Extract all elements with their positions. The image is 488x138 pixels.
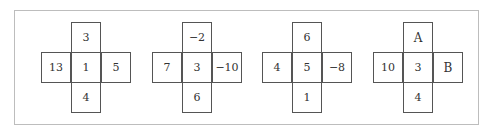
cell-left: 10 (373, 52, 403, 83)
cell-right: 5 (101, 52, 131, 83)
cell-right: −10 (212, 52, 242, 83)
cell-left: 13 (41, 52, 71, 83)
cell-bottom: 1 (292, 82, 322, 113)
cell-top: 3 (71, 22, 101, 53)
cross-grid-4: A 10 3 B 4 (373, 22, 463, 114)
cell-center: 1 (71, 52, 101, 83)
cell-left: 7 (152, 52, 182, 83)
cell-center: 5 (292, 52, 322, 83)
cross-grid-1: 3 13 1 5 4 (41, 22, 131, 114)
cell-top: −2 (182, 22, 212, 53)
cell-center: 3 (403, 52, 433, 83)
cell-left: 4 (262, 52, 292, 83)
cross-grid-3: 6 4 5 −8 1 (262, 22, 352, 114)
cell-top: 6 (292, 22, 322, 53)
cell-right: −8 (322, 52, 352, 83)
cell-top-unknown-a: A (403, 22, 433, 53)
cross-grid-2: −2 7 3 −10 6 (152, 22, 242, 114)
cell-bottom: 4 (403, 82, 433, 113)
cell-right-unknown-b: B (433, 52, 463, 83)
cell-bottom: 6 (182, 82, 212, 113)
cell-center: 3 (182, 52, 212, 83)
cell-bottom: 4 (71, 82, 101, 113)
